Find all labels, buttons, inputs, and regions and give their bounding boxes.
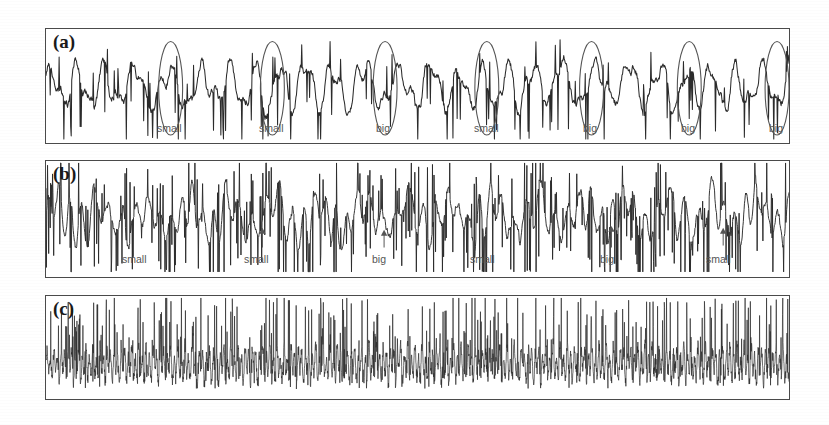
panel-a-label: (a) (53, 31, 75, 53)
event-label-big: big (372, 253, 386, 265)
event-ellipse (677, 42, 701, 135)
event-label-big: big (681, 122, 695, 134)
event-label-small: small (474, 122, 499, 134)
event-arrow-head (381, 230, 387, 236)
event-ellipse (765, 42, 789, 135)
event-label-small: small (244, 253, 269, 265)
event-label-small: small (470, 253, 495, 265)
event-label-small: small (706, 253, 731, 265)
panel-b: (b) (45, 160, 790, 278)
panel-c-annotations (46, 296, 789, 399)
event-label-small: small (122, 253, 147, 265)
event-ellipse (580, 42, 604, 135)
event-label-big: big (769, 122, 783, 134)
event-label-big: big (376, 122, 390, 134)
event-label-small: small (259, 122, 284, 134)
panel-c-label: (c) (53, 298, 74, 320)
panel-b-annotations (46, 161, 789, 277)
event-ellipse (475, 42, 499, 135)
event-ellipse (260, 42, 284, 135)
event-arrow-head (259, 228, 265, 234)
panel-b-label: (b) (53, 163, 76, 185)
event-label-small: small (157, 122, 182, 134)
event-ellipse (373, 42, 397, 135)
event-arrow-head (720, 228, 726, 234)
event-ellipse (159, 42, 183, 135)
event-arrow-head (608, 226, 614, 232)
panel-c: (c) (45, 295, 790, 400)
event-label-big: big (600, 253, 614, 265)
event-label-big: big (583, 122, 597, 134)
